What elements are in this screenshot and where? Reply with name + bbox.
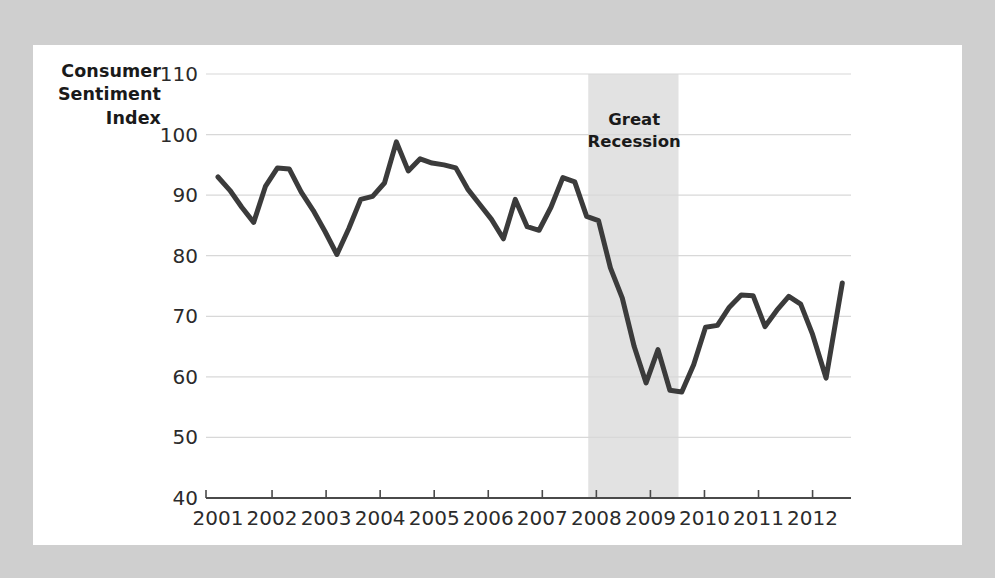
x-tick-label: 2005	[409, 506, 460, 530]
recession-label-line: Recession	[588, 132, 681, 151]
x-tick-label: 2006	[463, 506, 514, 530]
x-tick-label: 2009	[625, 506, 676, 530]
y-tick-label: 80	[173, 244, 198, 268]
line-chart-plot: 405060708090100110 200120022003200420052…	[33, 45, 962, 545]
y-tick-label: 90	[173, 183, 198, 207]
x-tick-label: 2003	[301, 506, 352, 530]
x-axis-ticks	[206, 490, 813, 498]
x-tick-label: 2004	[355, 506, 406, 530]
figure-root: Consumer Sentiment Index 405060708090100…	[0, 0, 995, 578]
x-axis-tick-labels: 2001200220032004200520062007200820092010…	[193, 506, 838, 530]
data-series-line	[218, 142, 842, 392]
x-tick-label: 2008	[571, 506, 622, 530]
y-axis-tick-labels: 405060708090100110	[160, 62, 198, 510]
y-tick-label: 50	[173, 425, 198, 449]
y-tick-label: 70	[173, 304, 198, 328]
recession-label-line: Great	[608, 110, 660, 129]
y-tick-label: 100	[160, 123, 198, 147]
chart-card: Consumer Sentiment Index 405060708090100…	[33, 45, 962, 545]
x-tick-label: 2010	[679, 506, 730, 530]
x-tick-label: 2012	[787, 506, 838, 530]
x-tick-label: 2001	[193, 506, 244, 530]
x-tick-label: 2002	[247, 506, 298, 530]
y-tick-label: 110	[160, 62, 198, 86]
sentiment-line	[218, 142, 842, 392]
gridlines	[206, 74, 851, 437]
y-tick-label: 60	[173, 365, 198, 389]
x-tick-label: 2011	[733, 506, 784, 530]
x-tick-label: 2007	[517, 506, 568, 530]
